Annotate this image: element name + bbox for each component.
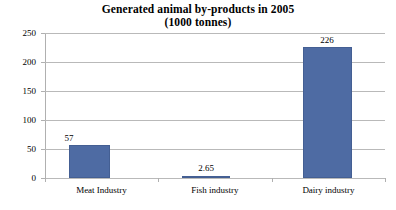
bar-fish-industry [182, 176, 230, 178]
y-tick-label-100: 100 [0, 116, 36, 125]
x-tick-mark-1 [158, 178, 159, 182]
y-tick-label-250: 250 [0, 29, 36, 38]
x-tick-mark-3 [385, 178, 386, 182]
bar-meat-industry [69, 145, 110, 178]
category-label-meat-industry: Meat Industry [45, 185, 158, 195]
bar-value-meat-industry: 57 [49, 134, 89, 143]
x-tick-mark-2 [272, 178, 273, 182]
gridline-0 [45, 178, 385, 179]
bar-chart: Generated animal by-products in 2005 (10… [0, 0, 396, 210]
gridline-250 [45, 33, 385, 34]
y-tick-label-200: 200 [0, 58, 36, 67]
category-label-fish-industry: Fish industry [158, 185, 272, 195]
chart-title: Generated animal by-products in 2005 [0, 3, 396, 16]
y-tick-label-50: 50 [0, 145, 36, 154]
x-tick-mark-0 [45, 178, 46, 182]
y-tick-label-0: 0 [0, 174, 36, 183]
bar-value-dairy-industry: 226 [307, 36, 347, 45]
chart-subtitle: (1000 tonnes) [0, 16, 396, 29]
plot-area [45, 33, 385, 178]
bar-dairy-industry [303, 47, 352, 178]
category-label-dairy-industry: Dairy industry [272, 185, 385, 195]
bar-value-fish-industry: 2.65 [186, 164, 226, 173]
y-tick-label-150: 150 [0, 87, 36, 96]
